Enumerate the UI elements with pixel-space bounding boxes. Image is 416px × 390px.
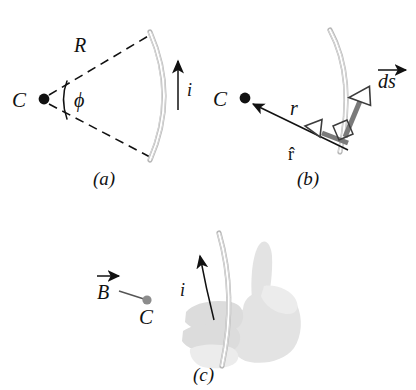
unit-vector-rhat-label: r̂ [288,144,295,164]
unit-vector-rhat-label-group: r̂ [288,144,295,164]
radius-line-lower [49,104,150,157]
radius-label: R [73,34,86,56]
physics-figure: C R ϕ i (a) r C ds [0,0,416,390]
right-hand-silhouette [182,242,301,369]
panel-b: r C ds r̂ (b) [213,30,406,190]
current-label-c: i [180,280,185,300]
center-point-dot-c [142,295,151,304]
center-point-label-a: C [12,88,27,112]
panel-c: i B C (c) [97,233,301,386]
figure-canvas: C R ϕ i (a) r C ds [0,0,416,390]
center-point-label-b: C [213,87,228,111]
element-label-ds-group: ds [378,70,406,92]
center-point-dot-b [240,93,251,104]
panel-a: C R ϕ i (a) [12,32,192,190]
distance-label-r: r [290,97,298,119]
panel-caption-c: (c) [193,364,214,386]
center-point-label-c: C [139,305,154,329]
field-label-B-group: B [97,276,119,303]
field-label-B: B [97,281,109,303]
panel-caption-b: (b) [297,168,319,190]
element-label-ds: ds [378,70,396,92]
wire-arc-a [148,32,166,160]
field-lead-line [119,291,144,299]
radius-line-upper [49,35,150,95]
panel-caption-a: (a) [93,168,115,190]
current-label-a: i [187,80,192,100]
element-vector-ds [345,81,377,137]
angle-label-phi: ϕ [74,89,84,112]
center-point-dot-a [39,94,50,105]
unit-vector-rhat-head [305,120,322,138]
